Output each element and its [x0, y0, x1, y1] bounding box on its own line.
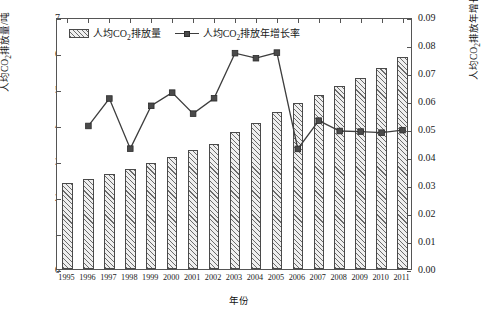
y-axis-right-tick-0.01: 0.01 [418, 237, 452, 247]
line-marker-2000 [169, 90, 175, 96]
y-axis-right-tick-0.03: 0.03 [418, 181, 452, 191]
legend-line-swatch-icon [175, 29, 199, 38]
x-axis-tick-2011: 2011 [387, 274, 417, 282]
legend-bar-label: 人均CO2排放量 [93, 25, 161, 42]
y-axis-left-title-pre: 人均CO [0, 59, 10, 92]
line-marker-2004 [253, 55, 259, 61]
line-series [57, 19, 413, 271]
line-marker-2011 [400, 127, 406, 133]
y-axis-right-tick-0.00: 0.00 [418, 265, 452, 275]
line-marker-2008 [337, 128, 343, 134]
line-marker-1997 [107, 96, 113, 102]
y-axis-left-title-post: 排放量/吨 [0, 12, 10, 55]
legend-line-label: 人均CO2排放年增长率 [203, 25, 301, 42]
y-axis-right-title-pre: 人均CO [469, 47, 479, 80]
y-axis-left-title: 人均CO2排放量/吨 [0, 12, 13, 92]
line-marker-2005 [274, 50, 280, 56]
y-axis-right-title: 人均CO2排放年增长率 [466, 0, 482, 80]
y-axis-right-tick-0.04: 0.04 [418, 153, 452, 163]
line-marker-2001 [190, 111, 196, 117]
y-tick-mark [407, 271, 411, 272]
x-axis-title: 年份 [0, 293, 478, 307]
y-axis-right-tick-0.07: 0.07 [418, 69, 452, 79]
line-marker-2006 [295, 146, 301, 152]
chart-legend: 人均CO2排放量 人均CO2排放年增长率 [66, 24, 303, 43]
y-axis-right-tick-0.06: 0.06 [418, 97, 452, 107]
y-axis-right-tick-0.02: 0.02 [418, 209, 452, 219]
line-marker-1998 [127, 146, 133, 152]
line-marker-1996 [86, 123, 92, 129]
legend-item-line: 人均CO2排放年增长率 [175, 25, 301, 42]
growth-rate-line [88, 53, 402, 149]
y-axis-right-tick-0.05: 0.05 [418, 125, 452, 135]
line-marker-2010 [379, 130, 385, 136]
line-marker-2009 [358, 129, 364, 135]
plot-area [56, 18, 412, 270]
y-axis-right-title-post: 排放年增长率 [469, 0, 479, 43]
y-axis-right-title-sub: 2 [473, 43, 482, 47]
line-marker-2003 [232, 50, 238, 56]
y-tick-mark [57, 271, 61, 272]
line-marker-2002 [211, 95, 217, 101]
legend-item-bar: 人均CO2排放量 [69, 25, 161, 42]
legend-bar-swatch-icon [69, 29, 89, 38]
line-marker-2007 [316, 118, 322, 124]
y-axis-left-title-sub: 2 [4, 55, 13, 59]
y-axis-right-tick-0.08: 0.08 [418, 41, 452, 51]
y-axis-right-tick-0.09: 0.09 [418, 13, 452, 23]
line-marker-1999 [148, 103, 154, 109]
